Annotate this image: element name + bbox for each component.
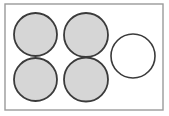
- burner-bottom-center: Bottom center burner: [64, 58, 108, 102]
- burner-top-left: Top left burner: [14, 13, 57, 56]
- cooktop-diagram: Top left burnerTop center burnerBottom l…: [0, 0, 169, 116]
- burner-bottom-left: Bottom left burner: [14, 58, 57, 101]
- cooktop-diagram-svg: Top left burnerTop center burnerBottom l…: [0, 0, 169, 116]
- burner-right-empty: Right burner (unfilled): [111, 34, 155, 78]
- burner-top-center: Top center burner: [64, 13, 108, 57]
